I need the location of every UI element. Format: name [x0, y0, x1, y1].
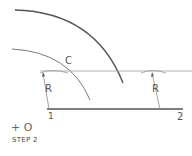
label-radius-right: R [152, 84, 159, 94]
center-marker: + O [11, 122, 32, 133]
large-arc [15, 10, 123, 83]
label-point-2: 2 [177, 112, 183, 122]
label-point-1: 1 [48, 112, 54, 121]
label-arc-c: C [65, 56, 72, 66]
construction-diagram: C R R 1 2 + O STEP 2 [0, 0, 192, 156]
step-label: STEP 2 [12, 137, 38, 144]
arrowhead-left-icon [42, 72, 45, 77]
label-radius-left: R [45, 84, 52, 94]
arrowhead-right-icon [151, 72, 154, 77]
